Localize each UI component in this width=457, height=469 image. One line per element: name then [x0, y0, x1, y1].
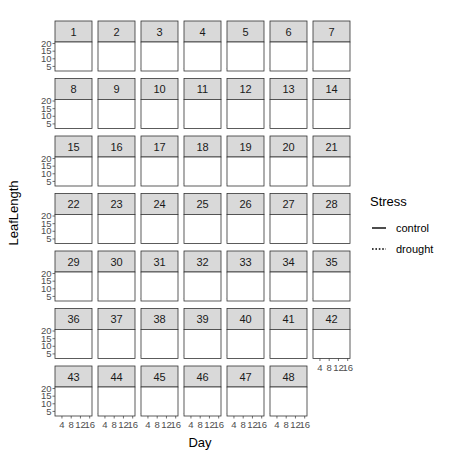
x-tick-label: 8: [155, 419, 160, 430]
facet-strip-label: 46: [196, 371, 208, 383]
facet-panel-28: 28: [313, 194, 350, 244]
facet-strip-label: 39: [196, 313, 208, 325]
facet-strip-label: 42: [325, 313, 337, 325]
x-tick-label: 8: [284, 419, 289, 430]
y-tick-label: 20: [41, 210, 52, 221]
facet-strip-label: 1: [70, 26, 76, 38]
facet-panel-8: 85101520: [41, 79, 92, 130]
facet-panel-34: 34: [270, 251, 307, 301]
facet-strip-label: 12: [239, 83, 251, 95]
facet-panels: 1510152023456785101520910111213141551015…: [41, 21, 353, 430]
y-tick-label: 20: [41, 38, 52, 49]
facet-strip-label: 10: [153, 83, 165, 95]
facet-panel-48: 48481216: [270, 366, 310, 430]
facet-strip-label: 16: [110, 141, 122, 153]
legend-title: Stress: [370, 194, 407, 209]
facet-panel-29: 295101520: [41, 251, 92, 302]
facet-panel-26: 26: [227, 194, 264, 244]
facet-strip-label: 32: [196, 256, 208, 268]
y-tick-label: 20: [41, 325, 52, 336]
facet-strip-label: 24: [153, 198, 165, 210]
facet-panel-27: 27: [270, 194, 307, 244]
facet-panel-32: 32: [184, 251, 221, 301]
facet-strip-label: 21: [325, 141, 337, 153]
facet-panel-21: 21: [313, 136, 350, 186]
facet-panel-23: 23: [98, 194, 135, 244]
x-tick-label: 4: [59, 419, 64, 430]
facet-panel-4: 4: [184, 21, 221, 71]
facet-strip-label: 5: [242, 26, 248, 38]
facet-strip-label: 22: [67, 198, 79, 210]
facet-strip-label: 41: [282, 313, 294, 325]
y-tick-label: 20: [41, 95, 52, 106]
facet-panel-38: 38: [141, 309, 178, 359]
facet-panel-37: 37: [98, 309, 135, 359]
facet-strip-label: 2: [113, 26, 119, 38]
facet-strip-label: 8: [70, 83, 76, 95]
facet-strip-label: 4: [199, 26, 205, 38]
y-tick-label: 20: [41, 153, 52, 164]
facet-strip-label: 47: [239, 371, 251, 383]
facet-panel-2: 2: [98, 21, 135, 71]
x-tick-label: 4: [188, 419, 193, 430]
facet-strip-label: 35: [325, 256, 337, 268]
facet-strip-label: 19: [239, 141, 251, 153]
facet-strip-label: 23: [110, 198, 122, 210]
x-tick-label: 16: [170, 419, 181, 430]
facet-strip-label: 13: [282, 83, 294, 95]
y-tick-label: 20: [41, 268, 52, 279]
legend-control-label: control: [396, 222, 429, 234]
facet-panel-41: 41: [270, 309, 307, 359]
legend-drought-label: drought: [396, 243, 433, 255]
facet-panel-39: 39: [184, 309, 221, 359]
facet-panel-9: 9: [98, 79, 135, 129]
y-axis-title: LeafLength: [6, 180, 21, 245]
facet-strip-label: 48: [282, 371, 294, 383]
facet-strip-label: 37: [110, 313, 122, 325]
facet-strip-label: 44: [110, 371, 122, 383]
x-tick-label: 16: [84, 419, 95, 430]
facet-panel-11: 11: [184, 79, 221, 129]
facet-panel-14: 14: [313, 79, 350, 129]
x-tick-label: 8: [69, 419, 74, 430]
facet-strip-label: 34: [282, 256, 294, 268]
facet-strip-label: 20: [282, 141, 294, 153]
facet-panel-24: 24: [141, 194, 178, 244]
x-tick-label: 16: [213, 419, 224, 430]
x-tick-label: 8: [327, 362, 332, 373]
facet-panel-46: 46481216: [184, 366, 224, 430]
facet-strip-label: 45: [153, 371, 165, 383]
facet-panel-18: 18: [184, 136, 221, 186]
facet-strip-label: 29: [67, 256, 79, 268]
x-tick-label: 16: [256, 419, 267, 430]
facet-panel-12: 12: [227, 79, 264, 129]
facet-strip-label: 40: [239, 313, 251, 325]
facet-strip-label: 26: [239, 198, 251, 210]
facet-strip-label: 30: [110, 256, 122, 268]
legend: Stress control drought: [370, 194, 433, 255]
facet-panel-42: 42481216: [313, 309, 353, 373]
facet-strip-label: 33: [239, 256, 251, 268]
x-tick-label: 16: [299, 419, 310, 430]
y-tick-label: 20: [41, 383, 52, 394]
facet-panel-19: 19: [227, 136, 264, 186]
facet-strip-label: 17: [153, 141, 165, 153]
facet-strip-label: 14: [325, 83, 337, 95]
facet-strip-label: 27: [282, 198, 294, 210]
facet-strip-label: 36: [67, 313, 79, 325]
facet-panel-5: 5: [227, 21, 264, 71]
facet-panel-15: 155101520: [41, 136, 92, 187]
facet-strip-label: 28: [325, 198, 337, 210]
facet-strip-label: 18: [196, 141, 208, 153]
x-axis-title: Day: [188, 435, 212, 450]
facet-panel-35: 35: [313, 251, 350, 301]
facet-strip-label: 25: [196, 198, 208, 210]
facet-line-chart: 1510152023456785101520910111213141551015…: [0, 0, 457, 469]
facet-strip-label: 31: [153, 256, 165, 268]
x-tick-label: 8: [112, 419, 117, 430]
facet-panel-20: 20: [270, 136, 307, 186]
facet-panel-1: 15101520: [41, 21, 92, 72]
facet-panel-47: 47481216: [227, 366, 267, 430]
facet-strip-label: 6: [285, 26, 291, 38]
facet-panel-44: 44481216: [98, 366, 138, 430]
